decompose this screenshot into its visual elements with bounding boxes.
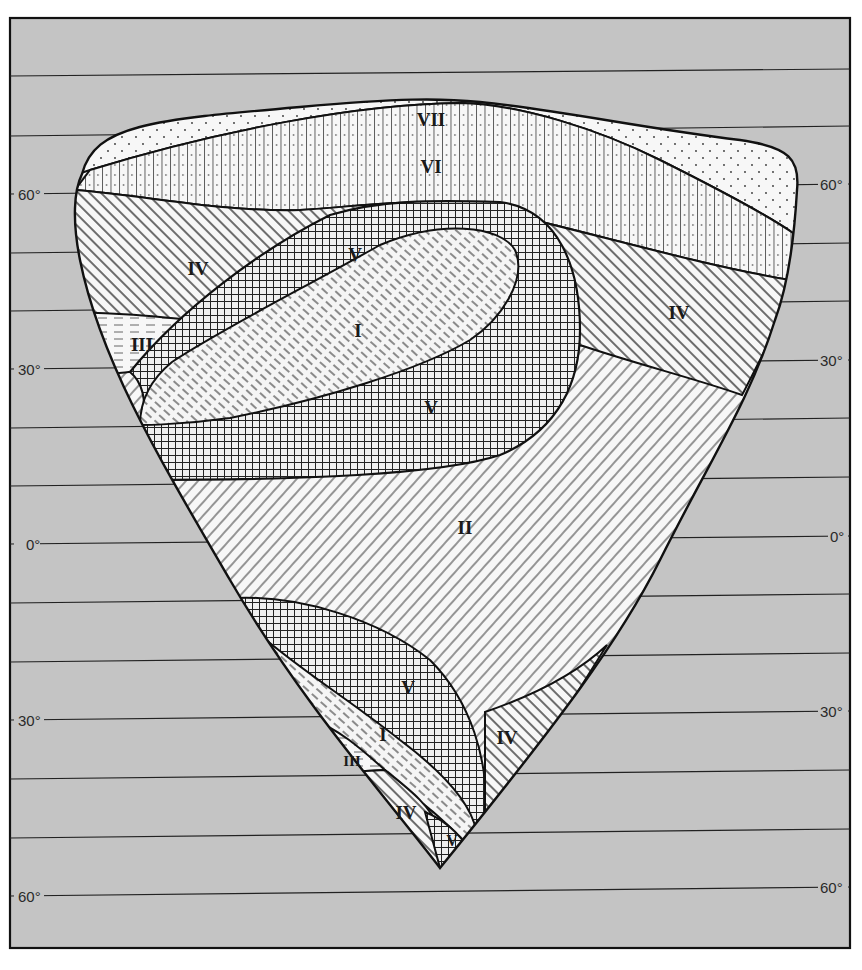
zone-label-II: II	[458, 517, 473, 538]
lat-label-right-0: 0°	[830, 528, 844, 545]
zone-label-IV-ne: IV	[668, 302, 689, 323]
lat-label-right-30s: 30°	[820, 703, 843, 720]
lat-label-right-30n: 30°	[820, 352, 843, 369]
lat-label-left-60n: 60°	[18, 186, 41, 203]
lat-label-left-60s: 60°	[18, 888, 41, 905]
lat-label-right-60s: 60°	[820, 879, 843, 896]
lat-label-left-30n: 30°	[18, 361, 41, 378]
zone-label-V-n2: V	[424, 397, 438, 418]
lat-label-left-0: 0°	[26, 536, 40, 553]
zone-label-I-n: I	[354, 320, 361, 341]
lat-label-left-30s: 30°	[18, 712, 41, 729]
zone-label-VII: VII	[417, 109, 446, 130]
zone-label-III-sw: III	[343, 753, 361, 769]
lat-label-right-60n: 60°	[820, 176, 843, 193]
zone-label-V-s1: V	[401, 677, 415, 698]
zone-label-V-n1: V	[348, 244, 362, 265]
zonal-diagram: 60° 30° 0° 30° 60° 60° 30° 0° 30° 60° VI…	[0, 0, 862, 970]
zone-label-IV-nw: IV	[187, 258, 208, 279]
zone-label-I-s: I	[379, 724, 386, 745]
zone-label-IV-sw: IV	[395, 802, 416, 823]
zone-label-III-nw: III	[131, 334, 153, 355]
zone-label-V-s2: V	[446, 832, 458, 849]
zone-label-IV-se: IV	[496, 727, 517, 748]
zone-label-VI: VI	[420, 156, 441, 177]
